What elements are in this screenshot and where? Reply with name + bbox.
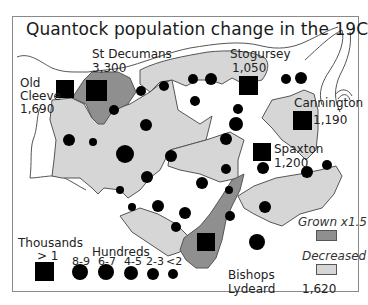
- legend-circle-lt2: [168, 269, 178, 279]
- legend-circle-2-3: [147, 268, 159, 280]
- marker-thousands-st-decumans: [86, 80, 107, 101]
- marker-hundreds: [152, 200, 164, 212]
- marker-hundreds: [179, 207, 191, 219]
- place-name-cannington: Cannington: [294, 96, 363, 110]
- place-name-old-cleeve-1: Old: [20, 76, 40, 90]
- marker-hundreds: [159, 81, 169, 91]
- legend-range-lt2: <2: [166, 255, 182, 269]
- marker-hundreds: [63, 134, 75, 146]
- marker-hundreds: [128, 203, 136, 211]
- marker-hundreds: [196, 177, 208, 189]
- legend-range-6-7: 6-7: [98, 255, 116, 269]
- place-value-stogursey: 1,050: [232, 61, 266, 75]
- marker-hundreds: [229, 117, 243, 131]
- marker-hundreds: [257, 162, 269, 174]
- place-name-stogursey: Stogursey: [230, 47, 291, 61]
- marker-thousands-stogursey: [239, 76, 258, 95]
- legend-thousands-range: > 1: [37, 249, 59, 263]
- map-title: Quantock population change in the 19C: [26, 19, 368, 39]
- marker-hundreds: [171, 222, 181, 232]
- marker-hundreds: [140, 119, 152, 131]
- marker-hundreds: [165, 150, 177, 162]
- marker-hundreds: [220, 133, 232, 145]
- place-value-old-cleeve: 1,690: [20, 102, 54, 116]
- place-name-old-cleeve-2: Cleeve: [20, 89, 61, 103]
- marker-hundreds: [249, 234, 265, 250]
- legend-decreased-swatch: [316, 264, 337, 275]
- legend-range-8-9: 8-9: [72, 255, 90, 269]
- marker-hundreds: [188, 74, 198, 84]
- legend-grown-swatch: [316, 230, 337, 241]
- place-name-st-decumans: St Decumans: [92, 47, 172, 61]
- marker-hundreds: [190, 96, 200, 106]
- marker-hundreds: [259, 201, 271, 213]
- marker-hundreds: [295, 72, 307, 84]
- legend-square-thousands: [35, 262, 54, 281]
- legend-range-4-5: 4-5: [124, 255, 142, 269]
- place-value-bishops-lydeard: 1,620: [302, 282, 336, 296]
- legend-range-2-3: 2-3: [146, 255, 164, 269]
- place-value-spaxton: 1,200: [274, 156, 308, 170]
- marker-hundreds: [225, 211, 235, 221]
- marker-hundreds: [322, 160, 332, 170]
- marker-hundreds: [116, 186, 124, 194]
- marker-thousands-bishops-lydeard: [197, 233, 215, 251]
- marker-thousands-spaxton: [253, 143, 271, 161]
- marker-hundreds: [141, 171, 153, 183]
- legend-decreased-label: Decreased: [302, 249, 366, 263]
- place-value-cannington: 1,190: [313, 113, 347, 127]
- marker-hundreds: [109, 105, 119, 115]
- marker-hundreds: [233, 104, 243, 114]
- place-name-bishops-lydeard-2: Lydeard: [228, 282, 275, 296]
- place-value-st-decumans: 3,300: [92, 61, 126, 75]
- legend-grown-label: Grown x1.5: [298, 215, 367, 229]
- marker-hundreds: [221, 164, 231, 174]
- marker-hundreds: [89, 138, 97, 146]
- place-name-bishops-lydeard-1: Bishops: [228, 268, 275, 282]
- marker-hundreds: [225, 186, 233, 194]
- legend-thousands-label: Thousands: [18, 236, 83, 250]
- marker-thousands-cannington: [293, 111, 312, 130]
- marker-hundreds: [116, 145, 134, 163]
- marker-hundreds: [281, 74, 291, 84]
- region-grown: [180, 174, 244, 268]
- place-name-spaxton: Spaxton: [274, 142, 323, 156]
- marker-hundreds: [205, 73, 217, 85]
- marker-hundreds: [136, 86, 146, 96]
